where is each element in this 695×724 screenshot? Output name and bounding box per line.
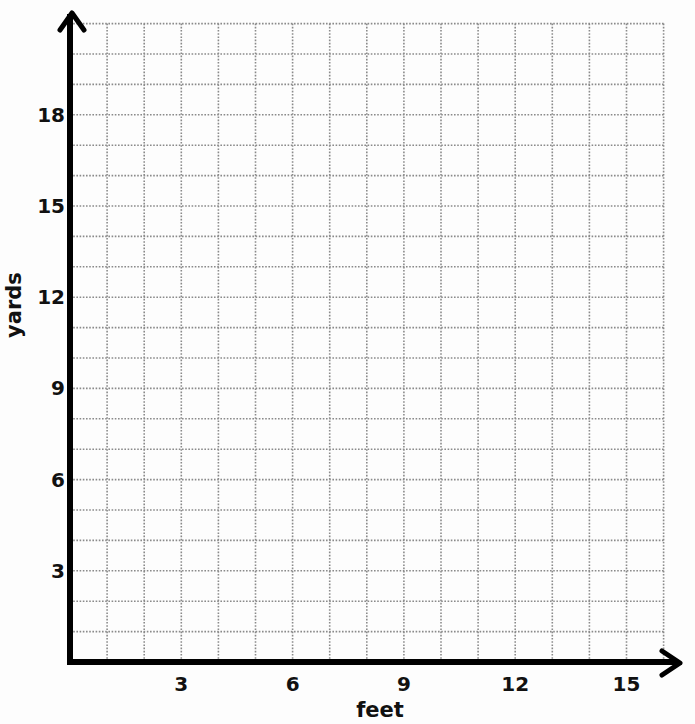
grid-lines (70, 24, 664, 662)
y-tick-label: 15 (37, 194, 65, 218)
axes (60, 13, 680, 675)
y-tick-label: 12 (37, 285, 65, 309)
x-tick-label: 12 (501, 672, 529, 696)
y-tick-label: 9 (51, 376, 65, 400)
coordinate-grid-chart: 3691215 369121518 feet yards (0, 0, 695, 724)
y-tick-label: 3 (51, 559, 65, 583)
x-tick-label: 6 (286, 672, 300, 696)
x-axis-label: feet (356, 698, 404, 722)
y-axis-label: yards (2, 272, 26, 338)
x-tick-labels: 3691215 (174, 672, 640, 696)
y-tick-label: 6 (51, 468, 65, 492)
x-tick-label: 15 (613, 672, 641, 696)
y-tick-labels: 369121518 (37, 103, 65, 583)
x-tick-label: 9 (397, 672, 411, 696)
x-tick-label: 3 (174, 672, 188, 696)
y-tick-label: 18 (37, 103, 65, 127)
